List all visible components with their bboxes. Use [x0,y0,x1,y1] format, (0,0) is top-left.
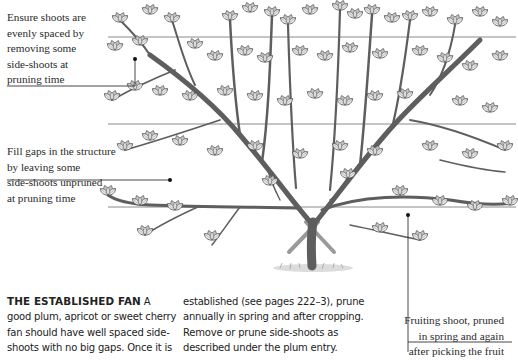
callout-line: Ensure shoots are [7,10,127,26]
callout-line: in spring and again [344,329,504,345]
callout-line: removing some [7,41,127,57]
body-text-column-2: established (see pages 222–3), prune ann… [183,294,363,356]
callout-fruiting-shoot: Fruiting shoot, pruned in spring and aga… [344,313,504,360]
callout-fill-gaps: Fill gaps in the structure by leaving so… [7,144,167,206]
body-line: described under the plum entry. [183,340,363,355]
body-line: good plum, apricot or sweet cherry [7,309,177,324]
callout-line: side-shoots unpruned [7,175,167,191]
body-text-lead: A [144,296,151,307]
body-line: THE ESTABLISHED FAN A [7,294,177,309]
body-line: established (see pages 222–3), prune [183,294,363,309]
callout-line: evenly spaced by [7,26,127,42]
body-line: Remove or prune side-shoots as [183,325,363,340]
tree-branches [108,10,512,266]
callout-line: pruning time [7,72,127,88]
body-line: fan should have well spaced side- [7,325,177,340]
callout-line: at pruning time [7,191,167,207]
callout-line: by leaving some [7,160,167,176]
body-text-column-1: THE ESTABLISHED FAN A good plum, apricot… [7,294,177,356]
body-line: shoots with no big gaps. Once it is [7,340,177,355]
callout-line: side-shoots at [7,57,127,73]
callout-line: Fruiting shoot, pruned [344,313,504,329]
body-line: annually in spring and after cropping. [183,309,363,324]
section-heading: THE ESTABLISHED FAN [7,295,141,307]
callout-even-spacing: Ensure shoots are evenly spaced by remov… [7,10,127,88]
callout-line: after picking the fruit [344,344,504,360]
callout-line: Fill gaps in the structure [7,144,167,160]
